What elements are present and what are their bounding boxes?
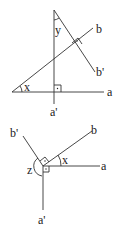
- right-angle-dot: [44, 160, 45, 161]
- angle-y-arc: [54, 18, 59, 20]
- angle-x-arc: [20, 86, 22, 92]
- angle-diagram: x y b b' a a' x z b b' a a': [0, 0, 122, 234]
- right-angle-dot: [45, 168, 46, 169]
- label-x: x: [62, 153, 68, 167]
- label-a: a: [101, 159, 107, 173]
- label-b: b: [91, 123, 97, 137]
- figure-bottom: x z b b' a a': [10, 123, 107, 227]
- label-y: y: [55, 23, 61, 37]
- label-b-prime: b': [96, 65, 104, 79]
- label-a: a: [107, 85, 113, 99]
- label-x: x: [24, 80, 30, 94]
- label-b-prime: b': [10, 126, 18, 140]
- line-b-prime: [23, 136, 43, 166]
- label-b: b: [96, 22, 102, 36]
- label-a-prime: a': [38, 213, 46, 227]
- figure-top: x y b b' a a': [12, 10, 113, 119]
- label-z: z: [27, 163, 32, 177]
- right-angle-dot: [76, 40, 77, 41]
- angle-x-arc: [58, 155, 61, 166]
- right-angle-dot: [57, 88, 58, 89]
- label-a-prime: a': [50, 105, 58, 119]
